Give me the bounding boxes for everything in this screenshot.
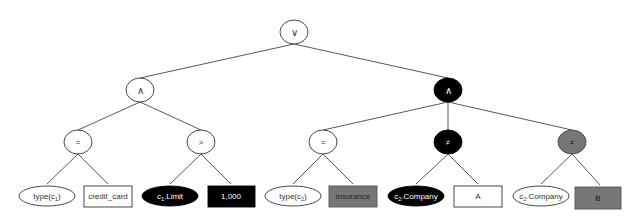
node-and-left: ∧ xyxy=(126,78,154,102)
leaf-label: B xyxy=(595,194,600,203)
greater-than-symbol: > xyxy=(199,138,204,147)
node-eq-left: = xyxy=(64,130,92,154)
leaf-type-c1: type(c1) xyxy=(19,186,75,206)
edge-andleft-gt xyxy=(140,102,201,130)
edge-root-and-left xyxy=(140,44,294,78)
not-equal-symbol: ≠ xyxy=(446,139,450,146)
leaf-credit-card: credit_card xyxy=(84,186,132,207)
leaf-c1-limit: c1.Limit xyxy=(142,186,198,206)
node-gt: > xyxy=(187,130,215,154)
edge-andright-eq xyxy=(323,102,448,130)
edge-andright-neq-gray xyxy=(448,102,572,130)
leaf-value-1000: 1,000 xyxy=(208,186,255,207)
edge-andleft-eq xyxy=(78,102,140,130)
not-equal-symbol: ≠ xyxy=(570,139,574,146)
edge-root-and-right xyxy=(294,44,448,78)
leaf-type-c2: type(c2) xyxy=(265,186,321,206)
edge-eq-typec2 xyxy=(293,154,323,184)
leaf-c2-company-white: c2.Company xyxy=(513,186,569,206)
or-symbol: ∨ xyxy=(291,27,298,38)
node-and-right: ∧ xyxy=(434,78,462,102)
node-eq-right: = xyxy=(309,130,337,154)
node-neq-black: ≠ xyxy=(434,130,462,154)
edge-eq-insurance xyxy=(323,154,353,184)
leaf-label: credit_card xyxy=(88,192,128,201)
edge-neq-c2company xyxy=(416,154,448,184)
node-root-or: ∨ xyxy=(280,20,308,44)
leaf-label: A xyxy=(475,192,481,201)
edge-eq-typec1 xyxy=(47,154,78,184)
leaf-c2-company-black: c2.Company xyxy=(388,186,444,206)
edge-gt-1000 xyxy=(201,154,231,184)
expression-tree: ∨ ∧ ∧ = > = ≠ ≠ type(c1) credit_card c1.… xyxy=(0,0,635,221)
leaf-label: insurance xyxy=(336,192,371,201)
and-symbol: ∧ xyxy=(445,85,452,96)
tree-edges xyxy=(47,44,600,185)
leaf-value-b: B xyxy=(575,187,621,209)
leaf-value-a: A xyxy=(454,186,502,207)
edge-neqgray-c2company xyxy=(541,154,572,184)
equals-symbol: = xyxy=(76,138,81,147)
edge-neq-a xyxy=(448,154,478,184)
leaf-label: c2.Company xyxy=(519,192,563,202)
node-neq-gray: ≠ xyxy=(558,130,586,154)
edge-gt-c1limit xyxy=(170,154,201,184)
leaf-insurance: insurance xyxy=(329,186,377,207)
equals-symbol: = xyxy=(321,138,326,147)
leaf-label: c2.Company xyxy=(394,192,438,202)
edge-eq-creditcard xyxy=(78,154,108,184)
leaf-label: 1,000 xyxy=(221,192,242,201)
edge-neqgray-b xyxy=(572,154,600,185)
and-symbol: ∧ xyxy=(137,85,144,96)
